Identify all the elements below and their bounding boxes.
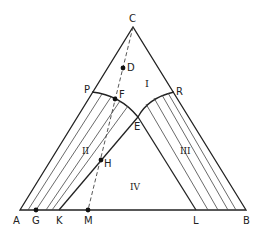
label-B: B [243,215,250,226]
label-A: A [13,215,20,226]
boundary-line-EK [59,117,138,210]
point-F [113,97,118,102]
label-F: F [119,89,125,100]
point-H [99,158,104,163]
boundary-line-EL [138,117,196,210]
label-D: D [127,62,135,73]
ternary-phase-diagram: C D P F R E H A G K M L B I II III IV [0,0,264,237]
region-label-III: III [180,146,191,156]
label-K: K [56,215,63,226]
label-M: M [84,215,93,226]
label-E: E [134,121,140,132]
region-label-II: II [82,146,90,156]
label-R: R [176,86,183,97]
label-G: G [32,215,40,226]
dashed-line-CM [88,27,133,210]
point-M [86,208,91,213]
region-label-I: I [145,78,149,89]
label-L: L [193,215,199,226]
region-label-IV: IV [130,182,141,192]
boundary-curve-PE [92,92,138,117]
label-P: P [84,84,90,95]
point-D [121,66,126,71]
label-H: H [104,158,112,169]
boundary-curve-RE [138,92,174,117]
label-C: C [129,13,136,24]
tie-lines-region-II [28,94,128,210]
point-G [34,208,39,213]
